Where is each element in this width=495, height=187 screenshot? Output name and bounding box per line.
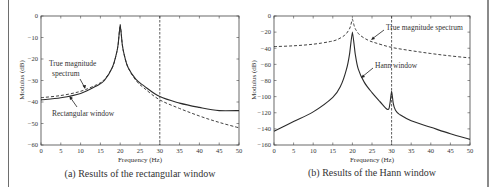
y-tick-label: −50 [28, 120, 38, 127]
y-tick-label: 0 [268, 12, 271, 19]
panel-a-xlabel: Frequency (Hz) [118, 156, 163, 164]
plot-area-border [274, 16, 470, 145]
panel-a-arrow-true [80, 79, 86, 89]
y-tick-label: −100 [258, 93, 271, 100]
x-tick-label: 5 [59, 147, 62, 154]
x-tick-label: 25 [369, 147, 376, 154]
y-tick-label: −20 [28, 55, 38, 62]
panel-a-curves [41, 16, 239, 145]
x-tick-label: 10 [77, 147, 84, 154]
x-tick-label: 50 [467, 147, 474, 154]
x-tick-label: 40 [196, 147, 203, 154]
x-tick-label: 0 [39, 147, 42, 154]
panel-b-arrow-true [371, 30, 384, 40]
y-tick-label: −60 [261, 61, 271, 68]
x-tick-label: 30 [157, 147, 164, 154]
x-tick-label: 45 [216, 147, 223, 154]
x-tick-label: 35 [176, 147, 183, 154]
window-spectrum-curve [274, 32, 470, 139]
panel-b-hann-window: 051015202530354045500−20−40−60−80−100−12… [250, 12, 473, 179]
panel-b-arrow-window [361, 68, 373, 78]
x-tick-label: 15 [97, 147, 104, 154]
y-tick-label: −10 [28, 34, 38, 41]
panel-a-axes [41, 16, 239, 145]
x-tick-label: 50 [236, 147, 243, 154]
panel-b-ylabel: Modulus (dB) [250, 60, 258, 100]
x-tick-label: 5 [292, 147, 295, 154]
x-tick-label: 20 [117, 147, 124, 154]
panel-b-label-true: True magnitude spectrum [386, 23, 463, 32]
y-tick-label: −30 [28, 77, 38, 84]
panel-b-xlabel: Frequency (Hz) [350, 156, 395, 164]
y-tick-label: −140 [258, 125, 271, 132]
x-tick-label: 35 [408, 147, 415, 154]
y-tick-label: 0 [35, 12, 38, 19]
y-tick-label: −80 [261, 77, 271, 84]
y-tick-label: −20 [261, 28, 271, 35]
y-tick-label: −40 [261, 45, 271, 52]
x-tick-label: 10 [310, 147, 317, 154]
panel-a-ticks: 051015202530354045500−10−20−30−40−50−60 [28, 12, 242, 154]
panel-a-label-true-line1: True magnitude [49, 59, 97, 68]
y-tick-label: −160 [258, 141, 271, 148]
panel-b-caption: (b) Results of the Hann window [308, 167, 437, 179]
y-tick-label: −120 [258, 109, 271, 116]
panel-b-curves [274, 16, 470, 145]
x-tick-label: 40 [428, 147, 435, 154]
x-tick-label: 25 [137, 147, 144, 154]
panel-b-label-window: Hann window [375, 61, 418, 70]
x-tick-label: 0 [272, 147, 275, 154]
plot-area-border [41, 16, 239, 145]
panel-a-caption: (a) Results of the rectangular window [65, 168, 217, 180]
panel-a-rectangular-window: 051015202530354045500−10−20−30−40−50−60 … [18, 12, 242, 180]
panel-a-label-true-line2: spectrum [52, 69, 80, 78]
x-tick-label: 20 [349, 147, 356, 154]
x-tick-label: 45 [447, 147, 454, 154]
y-tick-label: −60 [28, 141, 38, 148]
panel-b-axes [274, 16, 470, 145]
figure: 051015202530354045500−10−20−30−40−50−60 … [0, 0, 495, 187]
y-tick-label: −40 [28, 98, 38, 105]
x-tick-label: 15 [330, 147, 337, 154]
panel-a-arrow-window [70, 96, 78, 107]
panel-a-label-window: Rectangular window [52, 109, 115, 118]
x-tick-label: 30 [388, 147, 395, 154]
panel-a-ylabel: Modulus (dB) [18, 60, 26, 100]
